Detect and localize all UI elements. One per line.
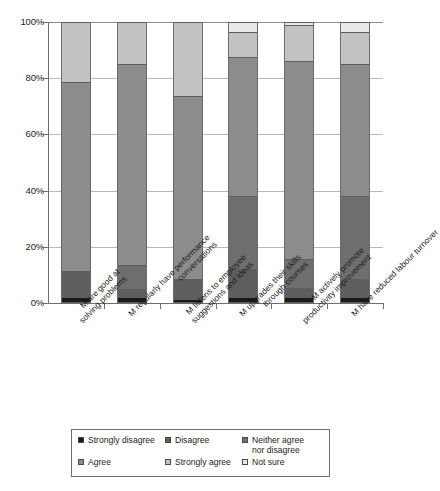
bar-segment [229, 57, 257, 196]
y-tick-label: 80% [0, 73, 44, 83]
gridline [48, 134, 383, 135]
legend-swatch-icon [242, 437, 248, 443]
legend-item[interactable]: Strongly disagree [78, 435, 155, 445]
legend-label: Strongly disagree [88, 435, 155, 445]
bar-segment [62, 22, 90, 82]
legend-label: Not sure [252, 457, 284, 467]
gridline [48, 191, 383, 192]
legend-swatch-icon [165, 437, 171, 443]
bar-segment [285, 61, 313, 259]
bar-segment [229, 32, 257, 57]
bar [61, 22, 91, 303]
chart-legend: Strongly disagreeDisagreeNeither agree n… [71, 429, 330, 477]
y-tick-label: 20% [0, 242, 44, 252]
bar-segment [341, 22, 369, 32]
legend-swatch-icon [165, 459, 171, 465]
bar-segment [62, 82, 90, 270]
bar-segment [341, 32, 369, 64]
x-axis-labels: M are good atsolving problemsM regularly… [0, 303, 398, 431]
legend-label: Strongly agree [175, 457, 231, 467]
y-tick-label: 60% [0, 129, 44, 139]
bar [117, 22, 147, 303]
y-tick-label: 40% [0, 186, 44, 196]
y-axis-line [48, 22, 49, 304]
legend-item[interactable]: Strongly agree [165, 457, 231, 467]
legend-item[interactable]: Disagree [165, 435, 209, 445]
bar-segment [341, 64, 369, 196]
bar-segment [229, 22, 257, 32]
legend-label: Disagree [175, 435, 209, 445]
legend-label: Neither agree nor disagree [252, 435, 304, 456]
bar-segment [118, 64, 146, 265]
legend-item[interactable]: Neither agree nor disagree [242, 435, 304, 456]
bar-segment [118, 22, 146, 64]
gridline [48, 22, 383, 23]
legend-swatch-icon [242, 459, 248, 465]
bar-segment [174, 22, 202, 96]
legend-label: Agree [88, 457, 111, 467]
gridline [48, 78, 383, 79]
legend-swatch-icon [78, 459, 84, 465]
legend-item[interactable]: Agree [78, 457, 111, 467]
y-tick-label: 100% [0, 17, 44, 27]
legend-swatch-icon [78, 437, 84, 443]
bar-segment [285, 25, 313, 62]
legend-item[interactable]: Not sure [242, 457, 284, 467]
